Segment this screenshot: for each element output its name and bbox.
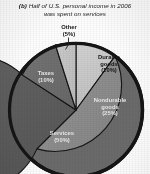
- pie-label-services-pct: (50%): [54, 137, 70, 143]
- pie-label-taxes-name: Taxes: [38, 70, 54, 76]
- pie-label-durable-name1: Durable: [98, 54, 120, 60]
- pie-label-taxes: Taxes (10%): [28, 70, 64, 83]
- pie-label-nondurable-pct: (25%): [102, 110, 118, 116]
- figure-panel: (b) Half of U.S. personal income in 2006…: [0, 0, 150, 174]
- pie-label-durable-name2: goods: [100, 61, 118, 67]
- pie-label-nondurable-goods: Nondurable goods (25%): [84, 97, 136, 117]
- pie-label-nondurable-name1: Nondurable: [94, 97, 127, 103]
- pie-label-taxes-pct: (10%): [38, 77, 54, 83]
- pie-label-durable-goods: Durable goods (10%): [87, 54, 131, 74]
- pie-label-services: Services (50%): [38, 130, 86, 143]
- pie-label-other-pct: (5%): [63, 31, 75, 37]
- pie-label-other: Other (5%): [46, 24, 92, 37]
- pie-label-services-name: Services: [50, 130, 74, 136]
- pie-label-other-name: Other: [61, 24, 77, 30]
- pie-label-nondurable-name2: goods: [101, 104, 119, 110]
- pie-label-durable-pct: (10%): [101, 67, 117, 73]
